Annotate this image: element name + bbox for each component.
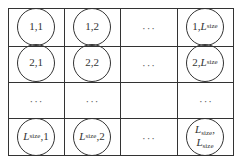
label-suffix: ,2 (96, 131, 104, 143)
label-prefix: 2, (192, 57, 200, 69)
label-sub: size (207, 59, 218, 66)
ellipsis-3-2: ··· (65, 83, 120, 118)
node-label-L-1: Lsize,1 (17, 118, 55, 156)
node-label-2-L: 2,Lsize (186, 44, 224, 82)
label-prefix: 1, (192, 21, 200, 33)
label-sub: size (207, 23, 218, 30)
label-line-2: Lsize (196, 137, 213, 150)
node-label-1-1: 1,1 (17, 8, 55, 46)
node-label-L-2: Lsize,2 (73, 118, 111, 156)
label-comma: , (212, 123, 215, 135)
node-label-2-1: 2,1 (17, 44, 55, 82)
node-label-L-L: Lsize, Lsize (186, 118, 224, 156)
ellipsis-2-3: ··· (121, 47, 177, 82)
node-label-1-2: 1,2 (73, 8, 111, 46)
label-sub: size (203, 142, 214, 150)
label-sub: size (85, 133, 96, 140)
ellipsis-3-4: ··· (178, 83, 234, 118)
label-line-1: Lsize, (195, 124, 215, 137)
ellipsis-3-1: ··· (9, 83, 64, 118)
node-label-2-2: 2,2 (73, 44, 111, 82)
ellipsis-4-3: ··· (121, 119, 177, 156)
ellipsis-1-3: ··· (121, 9, 177, 46)
node-label-1-L: 1,Lsize (186, 8, 224, 46)
label-suffix: ,1 (40, 131, 48, 143)
label-sub: size (29, 133, 40, 140)
